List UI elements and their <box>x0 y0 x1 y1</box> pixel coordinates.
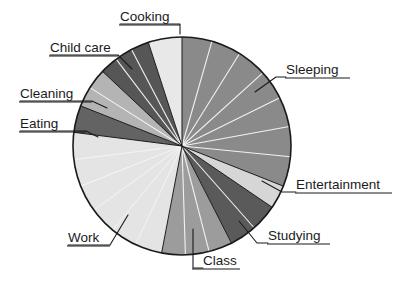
pie-chart-figure: Cooking Child care Cleaning Eating Work … <box>0 0 404 295</box>
callout-cooking[interactable]: Cooking <box>119 9 180 34</box>
label-eating: Eating <box>20 116 58 131</box>
label-cleaning: Cleaning <box>20 86 73 101</box>
label-class: Class <box>203 253 237 268</box>
label-work: Work <box>68 230 100 245</box>
label-sleeping: Sleeping <box>286 62 339 77</box>
label-studying: Studying <box>268 228 321 243</box>
label-child-care: Child care <box>50 40 111 55</box>
label-cooking: Cooking <box>120 9 170 24</box>
label-entertainment: Entertainment <box>296 177 380 192</box>
